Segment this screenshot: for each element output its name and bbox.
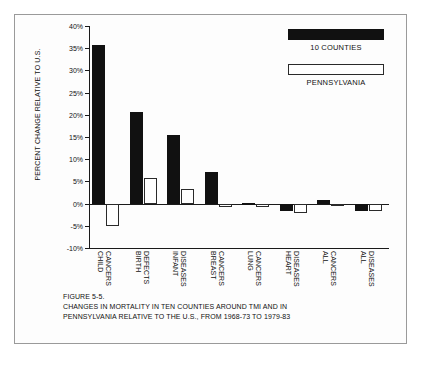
x-category-label-line: BIRTH (134, 251, 141, 272)
y-tick-label: 25% (37, 89, 83, 96)
bar-counties (130, 112, 143, 204)
bar-penn (369, 204, 382, 211)
y-tick-mark (85, 204, 90, 205)
y-tick-label: 5% (37, 178, 83, 185)
bar-counties (355, 204, 368, 212)
x-category-label-line: ALL (359, 251, 366, 264)
y-tick-label: 30% (37, 67, 83, 74)
bar-penn (181, 189, 194, 204)
legend-swatch (288, 29, 384, 40)
x-category-label-line: CANCERS (255, 251, 262, 286)
figure-caption: FIGURE 5-5. CHANGES IN MORTALITY IN TEN … (63, 292, 393, 322)
y-tick-label: 20% (37, 111, 83, 118)
x-category-label-line: DEFECTS (142, 251, 149, 284)
bar-penn (256, 204, 269, 208)
bar-counties (317, 200, 330, 203)
bar-penn (331, 204, 344, 206)
bar-penn (219, 204, 232, 208)
y-tick-label: 40% (37, 23, 83, 30)
y-tick-mark (85, 115, 90, 116)
x-category-label-line: DISEASES (180, 251, 187, 287)
x-category-label-line: BREAST (209, 251, 216, 280)
bar-counties (167, 135, 180, 203)
x-axis-line (89, 248, 389, 249)
x-category-label-line: CANCERS (330, 251, 337, 286)
x-category-label-line: HEART (284, 251, 291, 275)
chart-legend: 10 COUNTIESPENNSYLVANIA (280, 29, 392, 99)
y-tick-label: 0% (37, 200, 83, 207)
y-tick-label: -10% (37, 245, 83, 252)
bar-counties (242, 203, 255, 205)
legend-label: PENNSYLVANIA (280, 78, 392, 87)
y-tick-mark (85, 137, 90, 138)
caption-line-2: PENNSYLVANIA RELATIVE TO THE U.S., FROM … (63, 312, 393, 322)
y-axis-tick-labels: 40%35%30%25%20%15%10%5%0%-5%-10% (37, 26, 83, 248)
y-tick-mark (85, 93, 90, 94)
legend-label: 10 COUNTIES (280, 43, 392, 52)
chart-plot-area: PERCENT CHANGE RELATIVE TO U.S. 40%35%30… (15, 15, 408, 283)
bar-penn (294, 204, 307, 213)
x-category-label-line: LUNG (247, 251, 254, 271)
y-tick-mark (85, 226, 90, 227)
bar-counties (280, 204, 293, 211)
y-tick-label: 35% (37, 45, 83, 52)
y-tick-mark (85, 70, 90, 71)
caption-line-1: CHANGES IN MORTALITY IN TEN COUNTIES ARO… (63, 302, 393, 312)
x-category-label-line: CANCERS (105, 251, 112, 286)
bar-penn (106, 204, 119, 226)
y-tick-mark (85, 26, 90, 27)
y-tick-mark (85, 159, 90, 160)
x-category-label-line: DISEASES (292, 251, 299, 287)
x-category-label-line: CANCERS (217, 251, 224, 286)
figure-number: FIGURE 5-5. (63, 292, 393, 302)
legend-swatch (288, 64, 384, 75)
x-category-label-line: DISEASES (367, 251, 374, 287)
bar-counties (92, 45, 105, 204)
y-tick-mark (85, 48, 90, 49)
y-tick-mark (85, 248, 90, 249)
y-tick-label: 15% (37, 134, 83, 141)
figure-frame: PERCENT CHANGE RELATIVE TO U.S. 40%35%30… (14, 14, 407, 344)
bar-counties (205, 172, 218, 204)
bar-penn (144, 178, 157, 203)
x-category-label-line: CHILD (97, 251, 104, 273)
y-tick-label: -5% (37, 222, 83, 229)
y-tick-label: 10% (37, 156, 83, 163)
x-category-label-line: INFANT (172, 251, 179, 277)
x-category-label-line: ALL (322, 251, 329, 264)
y-tick-mark (85, 181, 90, 182)
